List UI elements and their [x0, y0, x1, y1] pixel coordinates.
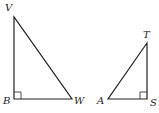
right-angle-marker-s [140, 92, 147, 99]
triangle-vbw: V B W [2, 2, 85, 106]
vertex-label-t: T [143, 29, 151, 40]
vertex-label-w: W [74, 95, 85, 106]
triangle-vbw-outline [14, 17, 72, 99]
vertex-label-v: V [5, 2, 14, 13]
vertex-label-b: B [2, 95, 10, 106]
triangle-tas: T A S [96, 29, 157, 108]
vertex-label-a: A [96, 95, 104, 106]
diagram-canvas: V B W T A S [0, 0, 159, 113]
triangle-tas-outline [108, 43, 147, 99]
right-angle-marker-b [14, 92, 21, 99]
vertex-label-s: S [150, 97, 157, 108]
